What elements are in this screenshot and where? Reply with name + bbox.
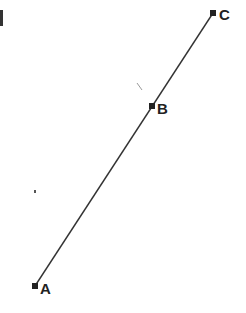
point-a-marker bbox=[32, 283, 38, 289]
point-b-label: B bbox=[157, 100, 168, 117]
edge-mark bbox=[0, 10, 3, 26]
point-b-marker bbox=[149, 103, 155, 109]
point-c-marker bbox=[210, 10, 216, 16]
point-c: C bbox=[210, 6, 230, 23]
line-segment-ac bbox=[35, 13, 213, 286]
point-c-label: C bbox=[219, 6, 230, 23]
diagram-canvas: A B C bbox=[0, 0, 246, 313]
tick-mark bbox=[137, 83, 142, 90]
point-b: B bbox=[149, 100, 168, 117]
point-a-label: A bbox=[40, 280, 51, 297]
point-a: A bbox=[32, 280, 51, 297]
stray-mark bbox=[34, 190, 36, 193]
